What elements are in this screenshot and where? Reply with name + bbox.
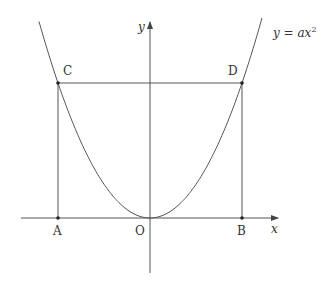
label-c: C xyxy=(63,64,72,78)
label-o: O xyxy=(135,224,145,238)
diagram-canvas: C D A O B x y y = ax2 xyxy=(0,0,328,290)
y-axis-label: y xyxy=(137,20,145,34)
label-d: D xyxy=(228,64,238,78)
point-b-dot xyxy=(240,216,244,220)
x-axis-label: x xyxy=(271,222,278,236)
curve-equation-label: y = ax2 xyxy=(272,25,316,40)
parabola-diagram: C D A O B x y y = ax2 xyxy=(0,0,328,290)
point-d-dot xyxy=(240,81,244,85)
point-a-dot xyxy=(56,216,60,220)
curve-equation-exponent: 2 xyxy=(311,25,316,34)
label-a: A xyxy=(52,224,62,238)
curve-equation-text: y = ax xyxy=(272,26,312,40)
label-b: B xyxy=(237,224,246,238)
point-c-dot xyxy=(56,81,60,85)
